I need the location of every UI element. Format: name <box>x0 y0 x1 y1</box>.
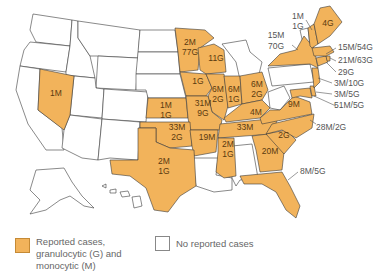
label-texas-m: 2M <box>158 156 170 166</box>
label-virginia: 9M <box>288 99 300 109</box>
label-missouri-g: 9G <box>197 108 208 118</box>
state-colorado <box>102 89 148 122</box>
callout-connecticut: 21M/63G <box>338 55 373 65</box>
state-rhode-island <box>326 56 330 61</box>
callout-massachusetts: 15M/54G <box>338 42 373 52</box>
label-wisconsin: 11G <box>208 53 223 63</box>
label-oklahoma-m: 33M <box>169 122 186 132</box>
legend-label-reported: Reported cases, granulocytic (G) and mon… <box>36 236 146 272</box>
label-indiana-g: 1G <box>228 94 239 104</box>
label-tennessee: 33M <box>237 122 254 132</box>
legend-swatch-reported <box>15 238 30 253</box>
state-florida <box>240 172 300 218</box>
label-illinois-m: 6M <box>212 84 224 94</box>
label-nevada: 1M <box>50 88 62 98</box>
label-georgia: 20M <box>262 146 279 156</box>
state-maryland <box>290 88 312 98</box>
callout-rhode-island: 29G <box>338 67 354 77</box>
legend-reported-line-1: Reported cases, <box>36 236 146 248</box>
label-mississippi-g: 1G <box>222 149 233 159</box>
callout-new-york-g: 70G <box>268 41 284 51</box>
label-missouri-m: 31M <box>195 98 212 108</box>
state-south-dakota <box>136 52 180 74</box>
label-indiana-m: 6M <box>228 84 240 94</box>
state-alaska <box>30 168 94 214</box>
state-wyoming <box>96 56 138 90</box>
label-arkansas: 19M <box>199 132 216 142</box>
label-ohio-m: 6M <box>251 79 263 89</box>
label-kansas-g: 1G <box>160 110 171 120</box>
label-kansas-m: 1M <box>160 100 172 110</box>
state-montana <box>78 21 140 58</box>
callout-north-carolina: 28M/2G <box>316 122 346 132</box>
state-new-mexico <box>98 119 140 160</box>
state-washington <box>30 14 72 46</box>
legend-swatch-none <box>155 236 170 251</box>
label-south-carolina: 2G <box>278 130 289 140</box>
label-illinois-g: 2G <box>212 94 223 104</box>
legend-reported-line-3: monocytic (M) <box>36 260 146 272</box>
state-hawaii <box>102 184 142 208</box>
callout-delaware: 3M/5G <box>334 89 360 99</box>
callout-new-hampshire-m: 1M <box>292 11 304 21</box>
callout-new-york-m: 15M <box>268 30 285 40</box>
label-maine: 4G <box>322 18 333 28</box>
label-ohio-g: 2G <box>251 89 262 99</box>
callout-maryland: 51M/5G <box>334 100 364 110</box>
legend-reported-line-2: granulocytic (G) and <box>36 248 146 260</box>
label-kentucky: 4M <box>250 107 262 117</box>
label-mississippi-m: 2M <box>222 139 234 149</box>
label-oklahoma-g: 2G <box>171 132 182 142</box>
state-pennsylvania <box>268 64 314 86</box>
legend-label-none: No reported cases <box>176 238 254 250</box>
label-minnesota-m: 2M <box>184 37 196 47</box>
callout-florida: 8M/5G <box>300 166 326 176</box>
label-texas-g: 1G <box>158 166 169 176</box>
callout-new-hampshire-g: 1G <box>292 21 303 31</box>
state-arizona <box>62 115 102 160</box>
callout-new-jersey: 3M/10G <box>334 78 364 88</box>
label-minnesota-g: 77G <box>182 47 198 57</box>
state-north-dakota <box>138 30 178 52</box>
label-iowa: 1G <box>192 76 203 86</box>
